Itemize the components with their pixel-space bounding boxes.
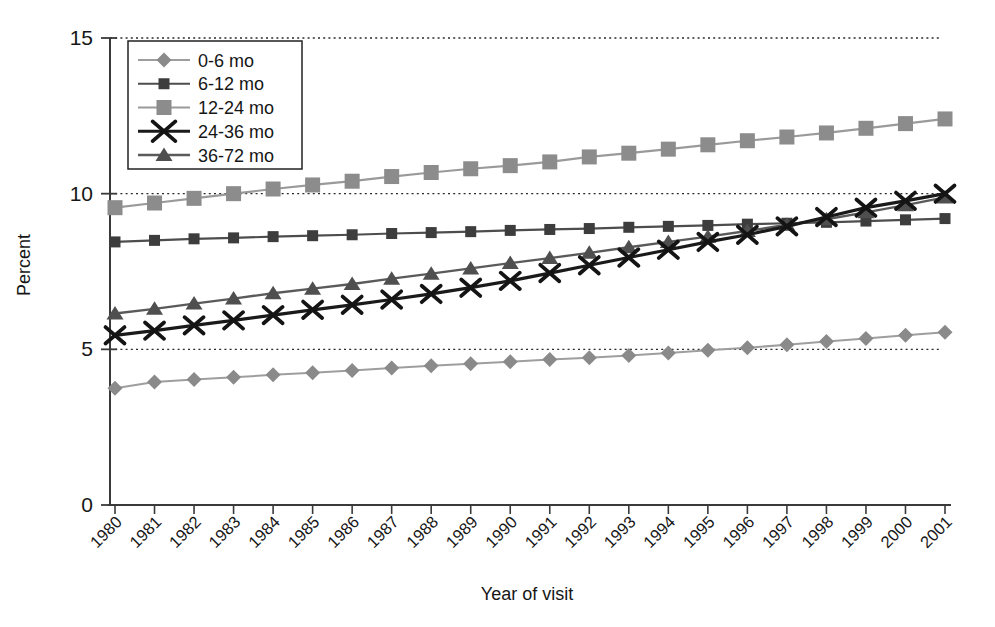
- diamond-marker: [424, 358, 439, 373]
- diamond-marker: [226, 370, 241, 385]
- x-tick-label-1983: 1983: [205, 512, 244, 551]
- x-tick-label-1994: 1994: [640, 512, 679, 551]
- series-line: [115, 197, 945, 313]
- diamond-marker: [898, 328, 913, 343]
- legend-item-12-24-mo[interactable]: 12-24 mo: [138, 98, 274, 118]
- x-axis-title: Year of visit: [481, 584, 573, 604]
- diamond-marker: [187, 372, 202, 387]
- square-large-marker: [503, 158, 518, 173]
- x-tick-label-1992: 1992: [561, 512, 600, 551]
- square-large-marker: [157, 100, 172, 115]
- square-large-marker: [384, 169, 399, 184]
- x-tick-label-1987: 1987: [363, 512, 402, 551]
- y-tick-label-15: 15: [70, 26, 93, 49]
- series-0-6-mo: [108, 325, 953, 396]
- square-small-marker: [189, 233, 200, 244]
- square-large-marker: [858, 121, 873, 136]
- square-small-marker: [505, 225, 516, 236]
- square-small-marker: [347, 229, 358, 240]
- square-large-marker: [938, 111, 953, 126]
- x-tick-label-1997: 1997: [758, 512, 797, 551]
- square-large-marker: [345, 174, 360, 189]
- x-tick-label-1989: 1989: [442, 512, 481, 551]
- legend-label: 6-12 mo: [198, 74, 264, 94]
- square-small-marker: [307, 230, 318, 241]
- square-small-marker: [159, 78, 170, 89]
- y-tick-label-0: 0: [81, 493, 93, 516]
- square-large-marker: [700, 137, 715, 152]
- x-tick-label-2001: 2001: [916, 512, 955, 551]
- diamond-marker: [147, 375, 162, 390]
- diamond-marker: [503, 354, 518, 369]
- square-small-marker: [110, 236, 121, 247]
- legend-label: 24-36 mo: [198, 122, 274, 142]
- diamond-marker: [661, 346, 676, 361]
- x-tick-label-1988: 1988: [403, 512, 442, 551]
- y-tick-label-5: 5: [81, 337, 93, 360]
- x-tick-label-1995: 1995: [679, 512, 718, 551]
- x-tick-label-1990: 1990: [482, 512, 521, 551]
- y-axis-title: Percent: [14, 234, 34, 296]
- square-large-marker: [819, 125, 834, 140]
- diamond-marker: [700, 343, 715, 358]
- diamond-marker: [345, 363, 360, 378]
- x-tick-label-1982: 1982: [165, 512, 204, 551]
- square-large-marker: [779, 130, 794, 145]
- x-tick-label-1991: 1991: [521, 512, 560, 551]
- series-24-36-mo: [106, 185, 955, 343]
- square-large-marker: [740, 133, 755, 148]
- diamond-marker: [938, 325, 953, 340]
- legend: 0-6 mo6-12 mo12-24 mo24-36 mo36-72 mo: [128, 41, 302, 169]
- diamond-marker: [305, 365, 320, 380]
- x-tick-label-1986: 1986: [324, 512, 363, 551]
- square-large-marker: [542, 154, 557, 169]
- square-small-marker: [426, 227, 437, 238]
- square-large-marker: [661, 142, 676, 157]
- square-large-marker: [266, 182, 281, 197]
- square-small-marker: [900, 214, 911, 225]
- line-chart: Percent Year of visit 051015198019811982…: [0, 0, 995, 627]
- square-large-marker: [424, 165, 439, 180]
- diamond-marker: [740, 340, 755, 355]
- x-tick-label-1999: 1999: [837, 512, 876, 551]
- square-small-marker: [465, 226, 476, 237]
- square-large-marker: [147, 196, 162, 211]
- square-large-marker: [898, 116, 913, 131]
- chart-figure: Percent Year of visit 051015198019811982…: [0, 0, 995, 627]
- square-small-marker: [584, 223, 595, 234]
- square-small-marker: [544, 224, 555, 235]
- square-large-marker: [226, 186, 241, 201]
- square-small-marker: [663, 221, 674, 232]
- square-large-marker: [463, 161, 478, 176]
- square-large-marker: [305, 177, 320, 192]
- diamond-marker: [819, 334, 834, 349]
- series-36-72-mo: [107, 190, 954, 320]
- x-tick-label-1996: 1996: [719, 512, 758, 551]
- diamond-marker: [463, 356, 478, 371]
- diamond-marker: [542, 352, 557, 367]
- diamond-marker: [582, 350, 597, 365]
- x-tick-label-1985: 1985: [284, 512, 323, 551]
- legend-label: 36-72 mo: [198, 146, 274, 166]
- legend-label: 0-6 mo: [198, 51, 254, 71]
- diamond-marker: [384, 361, 399, 376]
- x-tick-label-1993: 1993: [600, 512, 639, 551]
- diamond-marker: [858, 331, 873, 346]
- legend-label: 12-24 mo: [198, 98, 274, 118]
- square-small-marker: [268, 231, 279, 242]
- x-tick-label-2000: 2000: [877, 512, 916, 551]
- square-small-marker: [386, 228, 397, 239]
- diamond-marker: [266, 367, 281, 382]
- square-large-marker: [621, 146, 636, 161]
- y-tick-label-10: 10: [70, 182, 93, 205]
- x-tick-label-1981: 1981: [126, 512, 165, 551]
- square-small-marker: [940, 213, 951, 224]
- square-small-marker: [623, 222, 634, 233]
- x-tick-label-1980: 1980: [86, 512, 125, 551]
- square-large-marker: [582, 149, 597, 164]
- square-large-marker: [108, 200, 123, 215]
- x-tick-label-1998: 1998: [798, 512, 837, 551]
- square-small-marker: [228, 232, 239, 243]
- x-tick-label-1984: 1984: [245, 512, 284, 551]
- square-large-marker: [187, 191, 202, 206]
